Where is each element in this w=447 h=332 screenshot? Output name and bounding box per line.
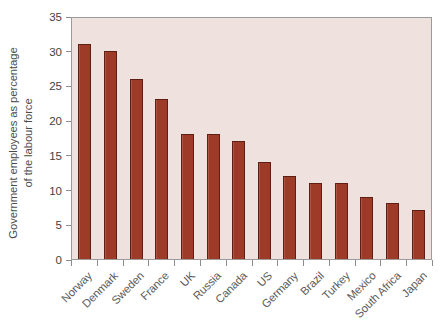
- y-axis-tick-label: 5: [56, 219, 66, 231]
- bar-denmark[interactable]: [104, 51, 117, 259]
- bar-uk[interactable]: [181, 134, 194, 259]
- y-axis-tick: 30: [0, 45, 71, 59]
- x-axis-tick-mark: [200, 260, 201, 266]
- bar-brazil[interactable]: [309, 183, 322, 259]
- bar-slot: [251, 18, 277, 259]
- bar-france[interactable]: [155, 99, 168, 259]
- x-axis-tick-mark: [303, 260, 304, 266]
- y-axis-tick: 10: [0, 184, 71, 198]
- y-axis-tick: 15: [0, 149, 71, 163]
- x-axis-tick-mark: [432, 260, 433, 266]
- bar-chart-figure: Government employees as percentage of th…: [0, 0, 447, 332]
- bar-slot: [123, 18, 149, 259]
- bar-us[interactable]: [258, 162, 271, 259]
- bar-germany[interactable]: [283, 176, 296, 259]
- bar-canada[interactable]: [232, 141, 245, 259]
- bar-series: [72, 18, 431, 259]
- y-axis-tick: 0: [0, 253, 71, 267]
- bar-slot: [200, 18, 226, 259]
- bar-south-africa[interactable]: [386, 203, 399, 259]
- y-axis-tick-label: 15: [49, 150, 66, 162]
- x-axis-tick-mark: [226, 260, 227, 266]
- x-axis-tick-mark: [97, 260, 98, 266]
- x-axis-tick-mark: [406, 260, 407, 266]
- bar-slot: [175, 18, 201, 259]
- y-axis-tick: 5: [0, 218, 71, 232]
- x-axis-tick-mark: [123, 260, 124, 266]
- x-axis-tick-mark: [355, 260, 356, 266]
- bar-slot: [277, 18, 303, 259]
- x-axis-tick-mark: [277, 260, 278, 266]
- x-axis-tick-mark: [252, 260, 253, 266]
- y-axis-tick-label: 20: [49, 115, 66, 127]
- y-axis-tick-label: 35: [49, 11, 66, 23]
- y-axis-title-line-1: Government employees as percentage: [6, 47, 21, 238]
- y-axis-tick: 20: [0, 114, 71, 128]
- bar-japan[interactable]: [412, 210, 425, 259]
- x-axis-label-text: UK: [178, 269, 197, 288]
- bar-slot: [72, 18, 98, 259]
- plot-area: [71, 17, 432, 260]
- y-axis-tick-label: 25: [49, 80, 66, 92]
- bar-norway[interactable]: [78, 44, 91, 259]
- x-axis-label-text: Japan: [399, 269, 429, 299]
- x-axis-tick-mark: [380, 260, 381, 266]
- bar-slot: [226, 18, 252, 259]
- x-axis-tick-mark: [329, 260, 330, 266]
- bar-turkey[interactable]: [335, 183, 348, 259]
- x-axis-label-text: US: [255, 269, 274, 288]
- bar-mexico[interactable]: [360, 197, 373, 259]
- bar-slot: [354, 18, 380, 259]
- bar-slot: [405, 18, 431, 259]
- y-axis-tick-label: 10: [49, 185, 66, 197]
- x-axis-tick-mark: [71, 260, 72, 266]
- bar-russia[interactable]: [207, 134, 220, 259]
- y-axis-title-line-2: of the labour force: [21, 98, 36, 187]
- x-axis-tick-mark: [148, 260, 149, 266]
- bar-slot: [98, 18, 124, 259]
- bar-slot: [380, 18, 406, 259]
- bar-slot: [303, 18, 329, 259]
- bar-slot: [149, 18, 175, 259]
- y-axis-tick-label: 30: [49, 46, 66, 58]
- bar-sweden[interactable]: [130, 79, 143, 260]
- y-axis-tick-label: 0: [56, 254, 66, 266]
- x-axis-tick-mark: [174, 260, 175, 266]
- y-axis-tick: 35: [0, 10, 71, 24]
- y-axis-tick: 25: [0, 79, 71, 93]
- bar-slot: [328, 18, 354, 259]
